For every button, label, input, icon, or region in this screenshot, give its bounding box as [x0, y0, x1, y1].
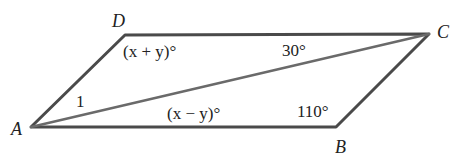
- angle-label-cab: (x − y)°: [167, 104, 220, 123]
- vertex-label-b: B: [335, 137, 346, 157]
- angle-label-b: 110°: [297, 102, 329, 121]
- vertex-label-d: D: [111, 11, 125, 31]
- parallelogram-diagram: A D C B (x + y)° 30° 1 (x − y)° 110°: [0, 0, 461, 166]
- angle-label-dca: 30°: [282, 41, 306, 60]
- diagonal-ac: [31, 34, 429, 127]
- angle-label-d: (x + y)°: [123, 42, 176, 61]
- angle-label-1: 1: [76, 92, 85, 111]
- vertex-label-c: C: [437, 22, 450, 42]
- vertex-label-a: A: [10, 119, 23, 139]
